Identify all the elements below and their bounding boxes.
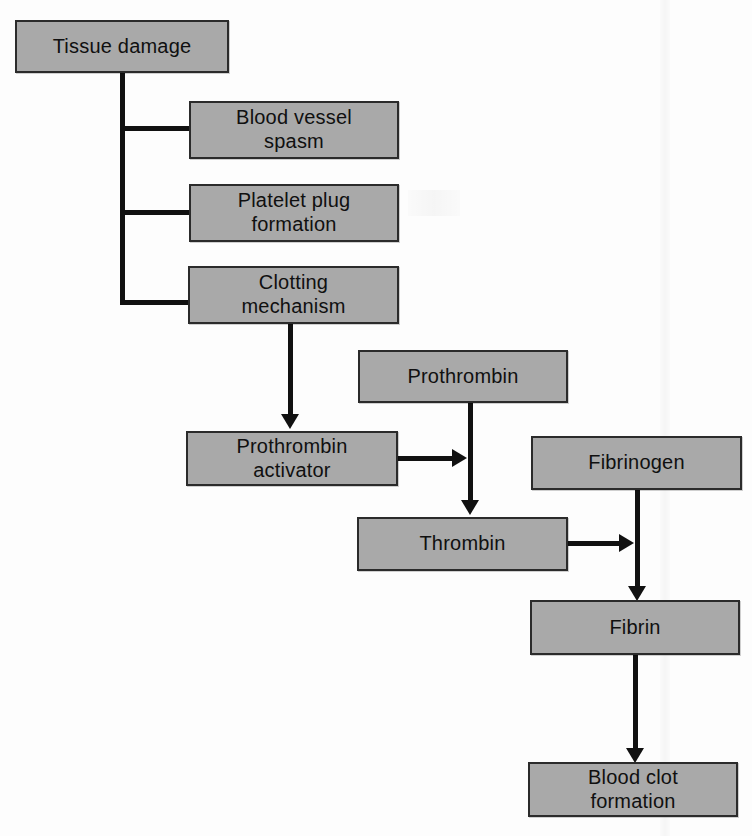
node-tissue-damage[interactable]: Tissue damage <box>15 20 229 73</box>
connector-prothrombin-to-thrombin <box>468 402 473 502</box>
flowchart-canvas: Tissue damage Blood vessel spasm Platele… <box>0 0 752 836</box>
connector-thrombin-to-fibrinogen-line <box>567 541 621 546</box>
node-fibrin[interactable]: Fibrin <box>530 600 740 655</box>
arrowhead-fibrinogen-to-fibrin <box>628 586 646 601</box>
node-label-clotting-mechanism: Clotting mechanism <box>237 271 349 318</box>
connector-tissue-to-spasm <box>120 126 192 131</box>
node-prothrombin-activator[interactable]: Prothrombin activator <box>186 431 398 486</box>
node-label-fibrin: Fibrin <box>605 616 664 640</box>
connector-activator-to-prothrombin-line <box>397 456 454 461</box>
node-thrombin[interactable]: Thrombin <box>357 517 568 571</box>
arrowhead-clotting-to-activator <box>281 414 299 429</box>
arrowhead-fibrin-to-blood-clot <box>626 748 644 763</box>
node-label-prothrombin: Prothrombin <box>403 365 522 389</box>
arrowhead-activator-to-prothrombin-line <box>452 449 467 467</box>
node-prothrombin[interactable]: Prothrombin <box>358 350 568 403</box>
node-label-tissue-damage: Tissue damage <box>49 35 196 59</box>
node-label-platelet-plug-formation: Platelet plug formation <box>234 189 355 236</box>
node-fibrinogen[interactable]: Fibrinogen <box>531 436 742 490</box>
connector-tissue-to-platelet <box>120 210 192 215</box>
arrowhead-prothrombin-to-thrombin <box>461 500 479 515</box>
connector-tissue-to-clotting <box>120 300 192 305</box>
node-label-prothrombin-activator: Prothrombin activator <box>232 435 351 482</box>
connector-fibrinogen-to-fibrin <box>635 489 640 589</box>
arrowhead-thrombin-to-fibrinogen-line <box>619 534 634 552</box>
node-label-fibrinogen: Fibrinogen <box>584 451 689 475</box>
connector-clotting-to-activator <box>288 323 293 416</box>
node-platelet-plug-formation[interactable]: Platelet plug formation <box>189 184 399 242</box>
node-blood-vessel-spasm[interactable]: Blood vessel spasm <box>189 101 399 159</box>
connector-fibrin-to-blood-clot <box>633 654 638 751</box>
node-label-blood-vessel-spasm: Blood vessel spasm <box>232 106 356 153</box>
connector-tissue-trunk <box>120 71 125 305</box>
node-blood-clot-formation[interactable]: Blood clot formation <box>528 762 738 817</box>
scan-artifact <box>660 0 670 836</box>
node-label-thrombin: Thrombin <box>415 532 509 556</box>
scan-artifact <box>408 190 460 216</box>
node-label-blood-clot-formation: Blood clot formation <box>584 766 682 813</box>
node-clotting-mechanism[interactable]: Clotting mechanism <box>188 266 399 324</box>
